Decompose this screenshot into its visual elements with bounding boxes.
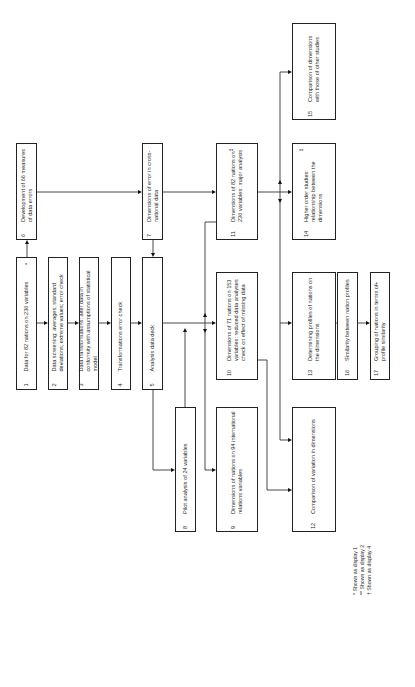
box-number: 8 — [182, 521, 189, 529]
footnote-mark: † — [375, 281, 378, 287]
footnote-mark: ** — [299, 148, 303, 154]
box-number: 7 — [145, 229, 152, 237]
box-16: 16 Similarity between nation profiles — [337, 272, 358, 380]
box-text: Dimensions of nations on 94 internationa… — [230, 411, 244, 514]
box-14: 14 Higher order studies: relationship be… — [292, 143, 336, 240]
box-number: 13 — [307, 368, 314, 376]
flowchart-canvas: 1 Data for 82 nations on 236 variables *… — [0, 0, 415, 687]
box-number: 4 — [117, 378, 124, 386]
box-number: 5 — [149, 378, 156, 386]
box-3: 3 Data transformations: alter data in co… — [79, 257, 99, 390]
box-13: 13 Determining profiles of nations on th… — [292, 272, 336, 380]
box-number: 14 — [303, 229, 310, 237]
box-9: 9 Dimensions of nations on 94 internatio… — [216, 407, 258, 532]
box-number: 17 — [373, 368, 380, 376]
box-number: 16 — [344, 368, 351, 376]
box-number: 15 — [307, 109, 314, 117]
box-text: Dimensions of error in cross-national da… — [145, 147, 159, 222]
box-1: 1 Data for 82 nations on 236 variables * — [16, 257, 37, 390]
legend-item: ** Shown as display 2 — [359, 545, 366, 595]
box-number: 3 — [78, 378, 85, 386]
footnote-mark: ** — [229, 148, 233, 154]
box-number: 9 — [230, 521, 237, 529]
box-text: Pilot analysis of 24 variables — [182, 411, 189, 514]
box-number: 11 — [230, 229, 237, 237]
box-6: 6 Development of 66 measures of data err… — [16, 143, 37, 240]
box-11: 11 Dimensions of 82 nations on 236 varia… — [216, 143, 258, 240]
box-number: 12 — [310, 521, 317, 529]
legend: * Shown as display 1 ** Shown as display… — [342, 535, 382, 595]
footnote-mark: * — [25, 262, 27, 268]
box-15: 15 Comparison of dimensions with those o… — [292, 23, 336, 120]
box-text: Grouping of nations in terms of profile … — [373, 276, 387, 361]
box-text: Higher order studies: relationship betwe… — [303, 147, 325, 222]
box-text: Data for 82 nations on 236 variables — [23, 261, 30, 371]
box-text: Comparison of variation in dimensions — [310, 411, 317, 514]
box-text: Similarity between nation profiles — [344, 276, 351, 361]
box-text: Dimensions of 71 nations on 153 variable… — [226, 276, 248, 361]
box-text: Transformations error check — [117, 261, 124, 371]
box-17: 17 Grouping of nations in terms of profi… — [370, 272, 390, 380]
box-4: 4 Transformations error check — [111, 257, 131, 390]
box-text: Data screening: averages; standard devia… — [51, 261, 65, 371]
box-number: 1 — [23, 378, 30, 386]
box-2: 2 Data screening: averages; standard dev… — [48, 257, 68, 390]
box-number: 10 — [226, 368, 233, 376]
box-text: Dimensions of 82 nations on 236 variable… — [230, 147, 244, 222]
box-7: 7 Dimensions of error in cross-national … — [142, 143, 163, 240]
box-text: Determining profiles of nations on the d… — [307, 276, 321, 361]
box-text: Data transformations: alter data in conf… — [78, 261, 100, 371]
legend-item: * Shown as display 1 — [352, 547, 359, 595]
legend-item: † Shown as display 4 — [366, 546, 373, 595]
box-text: Analysis data deck — [149, 261, 156, 371]
box-number: 6 — [19, 229, 26, 237]
box-12: 12 Comparison of variation in dimensions — [292, 407, 336, 532]
box-number: 2 — [51, 378, 58, 386]
box-5: 5 Analysis data deck — [142, 257, 163, 390]
box-text: Development of 66 measures of data error… — [19, 147, 33, 222]
box-8: 8 Pilot analysis of 24 variables — [175, 407, 196, 532]
box-10: 10 Dimensions of 71 nations on 153 varia… — [216, 272, 258, 380]
box-text: Comparison of dimensions with those of o… — [307, 27, 321, 102]
